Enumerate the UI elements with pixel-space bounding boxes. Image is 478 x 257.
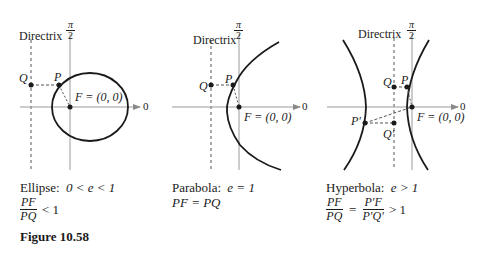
hyperbola-ratio-fraction-2: P′F P′Q′	[363, 196, 384, 223]
fraction-numerator: PF	[20, 196, 37, 210]
hyperbola-point-q	[392, 85, 397, 90]
ellipse-caption-name: Ellipse:	[20, 180, 60, 195]
hyperbola-directrix-label: Directrix	[358, 28, 401, 40]
parabola-zero-label: 0	[302, 101, 308, 112]
ellipse-directrix-label: Directrix	[19, 30, 62, 42]
ellipse-point-f	[68, 105, 73, 110]
ellipse-caption-line1: Ellipse: 0 < e < 1	[20, 180, 115, 195]
figure-number-label: Figure 10.58	[20, 229, 89, 245]
hyperbola-p-prime-label: P′	[351, 115, 361, 127]
parabola-curve	[227, 42, 281, 170]
hyperbola-caption-condition: e > 1	[391, 180, 419, 195]
hyperbola-caption: Hyperbola: e > 1 PF PQ = P′F P′Q′ > 1	[326, 180, 418, 223]
hyperbola-panel	[327, 34, 458, 170]
hyperbola-q-label: Q	[383, 76, 392, 88]
parabola-caption-condition: e = 1	[227, 180, 255, 195]
fraction-numerator: PF	[326, 196, 343, 210]
ellipse-caption-ratio: PF PQ < 1	[20, 196, 115, 223]
parabola-caption-equality: PF = PQ	[172, 195, 255, 210]
hyperbola-caption-ratio: PF PQ = P′F P′Q′ > 1	[326, 196, 418, 223]
ellipse-p-label: P	[54, 71, 61, 83]
ellipse-pi-over-2-label: π 2	[66, 20, 75, 41]
parabola-point-f	[237, 105, 242, 110]
ellipse-pf-segment	[59, 85, 70, 107]
hyperbola-left-branch	[343, 40, 366, 170]
hyperbola-point-p-prime	[363, 121, 368, 126]
ellipse-ratio-relation: < 1	[42, 202, 59, 217]
hyperbola-point-f	[410, 105, 415, 110]
ellipse-f-label: F = (0, 0)	[75, 91, 122, 103]
fraction-denominator: P′Q′	[363, 210, 384, 223]
hyperbola-point-q-prime	[392, 121, 397, 126]
fraction-denominator: PQ	[20, 210, 37, 223]
hyperbola-p-label: P	[401, 74, 408, 86]
pi-denominator: 2	[66, 31, 75, 41]
parabola-f-label: F = (0, 0)	[244, 111, 291, 123]
pi-denominator: 2	[407, 31, 416, 41]
ellipse-f-text: F = (0, 0)	[75, 90, 122, 104]
hyperbola-caption-name: Hyperbola:	[326, 180, 384, 195]
ellipse-point-q	[29, 83, 34, 88]
parabola-p-label: P	[225, 73, 232, 85]
fraction-numerator: P′F	[363, 196, 384, 210]
hyperbola-pi-over-2-label: π 2	[407, 20, 416, 41]
parabola-directrix-label: Directrix	[193, 34, 236, 46]
hyperbola-p-prime-f-segment	[365, 107, 412, 123]
hyperbola-caption-line1: Hyperbola: e > 1	[326, 180, 418, 195]
hyperbola-right-branch	[407, 40, 429, 170]
parabola-q-label: Q	[199, 80, 208, 92]
pi-denominator: 2	[234, 31, 243, 41]
hyperbola-ratio-relation: > 1	[389, 202, 406, 217]
ellipse-q-label: Q	[19, 72, 28, 84]
ellipse-caption: Ellipse: 0 < e < 1 PF PQ < 1	[20, 180, 115, 223]
fraction-denominator: PQ	[326, 210, 343, 223]
hyperbola-q-prime-label: Q′	[383, 128, 394, 140]
parabola-caption-line1: Parabola: e = 1	[172, 180, 255, 195]
hyperbola-ratio-fraction-1: PF PQ	[326, 196, 343, 223]
ellipse-caption-condition: 0 < e < 1	[66, 180, 115, 195]
parabola-caption: Parabola: e = 1 PF = PQ	[172, 180, 255, 210]
parabola-pi-over-2-label: π 2	[234, 20, 243, 41]
parabola-point-q	[209, 83, 214, 88]
parabola-caption-name: Parabola:	[172, 180, 221, 195]
parabola-pf-segment	[233, 85, 239, 107]
ellipse-zero-label: 0	[143, 101, 149, 112]
hyperbola-ratio-equals: =	[349, 202, 356, 217]
ellipse-ratio-fraction: PF PQ	[20, 196, 37, 223]
parabola-panel	[172, 34, 300, 172]
hyperbola-f-label: F = (0, 0)	[417, 111, 464, 123]
